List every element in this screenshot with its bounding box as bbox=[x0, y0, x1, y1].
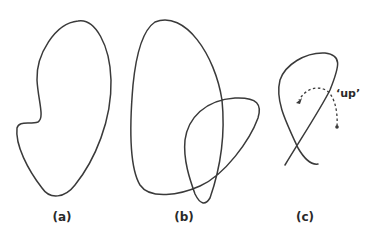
panel-label-c: (c) bbox=[285, 210, 325, 224]
panel-label-b: (b) bbox=[164, 210, 204, 224]
arrowhead-icon bbox=[296, 98, 302, 104]
curve-c bbox=[279, 53, 338, 165]
curve-a bbox=[17, 21, 111, 196]
panel-label-a: (a) bbox=[42, 210, 82, 224]
curve-b-outer bbox=[131, 20, 260, 203]
up-direction-arrow bbox=[299, 88, 337, 126]
up-annotation: ‘up’ bbox=[336, 87, 360, 100]
diagram-canvas bbox=[0, 0, 370, 236]
start-point-dot bbox=[335, 125, 339, 129]
